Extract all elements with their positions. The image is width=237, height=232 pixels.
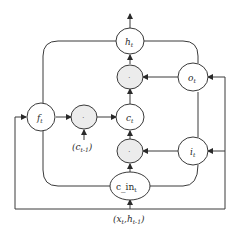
svg-text:(xt,ht-1): (xt,ht-1) xyxy=(113,214,145,225)
node-c-in: c_int xyxy=(110,172,150,200)
curve-h-to-o xyxy=(144,41,198,63)
svg-text:c_int: c_int xyxy=(116,182,137,193)
mult-forget-gate: · xyxy=(71,105,97,129)
svg-text:·: · xyxy=(82,113,85,122)
node-h: ht xyxy=(116,28,144,54)
curve-i-to-cin xyxy=(150,165,198,186)
svg-text:(ct-1): (ct-1) xyxy=(72,142,93,153)
svg-text:·: · xyxy=(128,73,131,82)
loop-to-f xyxy=(15,117,130,209)
svg-text:·: · xyxy=(128,147,131,156)
label-c-prev: (ct-1) xyxy=(72,142,93,153)
mult-output-gate: · xyxy=(117,65,143,89)
curve-f-to-cin xyxy=(43,131,110,186)
node-f: ft xyxy=(27,103,55,131)
label-x-h-input: (xt,ht-1) xyxy=(113,214,145,225)
lstm-diagram: ht · ot ct ft · (ct-1) · it c_int (xt,ht… xyxy=(0,0,237,232)
mult-input-gate: · xyxy=(117,139,143,163)
node-i: it xyxy=(178,137,208,165)
node-c: ct xyxy=(116,104,144,130)
curve-h-to-f xyxy=(43,41,116,103)
node-o: ot xyxy=(178,63,208,91)
